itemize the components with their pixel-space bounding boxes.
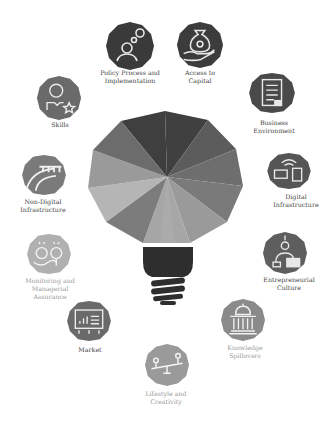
wifi-devices-icon xyxy=(266,152,312,190)
capitol-building-icon xyxy=(220,298,266,342)
person-gear-icon xyxy=(105,21,155,71)
label-policy-process: Policy Process and Implementation xyxy=(100,69,159,85)
bulb-segments xyxy=(88,111,243,243)
innovation-ecosystem-diagram: Policy Process and Implementation Access… xyxy=(0,0,333,425)
label-market: Market xyxy=(78,346,101,354)
money-bag-hand-icon xyxy=(176,21,224,69)
label-knowledge-spillovers: Knowledge Spillovers xyxy=(227,344,262,360)
label-digital-infrastructure: Digital Infrastructure xyxy=(273,193,318,209)
clipboard-icon xyxy=(248,72,296,114)
label-business-environment: Business Environment xyxy=(253,119,294,135)
label-skills: Skills xyxy=(51,121,68,129)
seesaw-icon xyxy=(144,343,190,387)
magnifier-faces-icon xyxy=(26,233,72,275)
label-lifestyle-creativity: Lifestyle and Creativity xyxy=(145,390,186,406)
label-monitoring-assurance: Monitoring and Managerial Assurance xyxy=(25,277,75,301)
person-star-icon xyxy=(36,75,82,121)
road-bridge-icon xyxy=(21,154,67,196)
bulb-screw xyxy=(151,277,185,305)
label-non-digital-infrastructure: Non-Digital Infrastructure xyxy=(20,198,65,214)
person-laptop-icon xyxy=(262,231,308,275)
presentation-chart-icon xyxy=(66,300,112,342)
label-entrepreneurial-culture: Entrepreneurial Culture xyxy=(263,276,314,292)
label-access-to-capital: Access to Capital xyxy=(185,69,215,85)
bulb-base xyxy=(143,247,193,277)
